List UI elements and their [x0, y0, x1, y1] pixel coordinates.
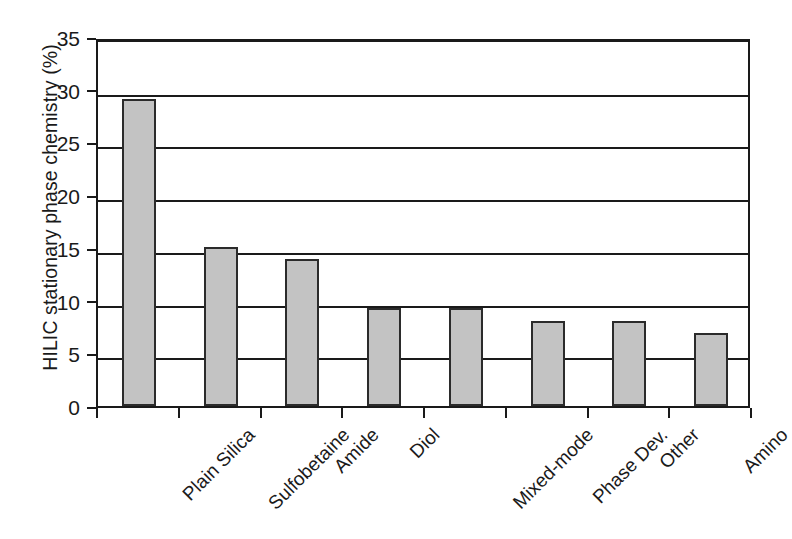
- y-axis-ticks: 05101520253035: [0, 0, 96, 539]
- y-axis-tick-label: 35: [57, 28, 80, 49]
- x-axis-tick-mark: [668, 408, 670, 418]
- gridline: [98, 147, 748, 149]
- bar: [694, 333, 728, 406]
- x-axis-category-label-text: Diol: [406, 424, 445, 463]
- x-axis-tick-mark: [587, 408, 589, 418]
- x-axis-category-label: Plain Silica: [178, 424, 259, 505]
- x-axis-category-label-text: Plain Silica: [178, 424, 259, 505]
- y-axis-tick-label: 10: [57, 292, 80, 313]
- y-axis-tick-mark: [87, 407, 96, 409]
- bar: [285, 259, 319, 406]
- y-axis-tick-label: 0: [68, 397, 80, 418]
- x-axis-tick-mark: [423, 408, 425, 418]
- y-axis-tick-label: 5: [68, 344, 80, 365]
- x-axis-tick-mark: [750, 408, 752, 418]
- x-axis-category-label-text: Phase Dev.: [588, 424, 672, 508]
- x-axis-tick-mark: [96, 408, 98, 418]
- y-axis-tick-label: 15: [57, 239, 80, 260]
- bar: [367, 308, 401, 406]
- x-axis-category-label-text: Amino: [739, 424, 792, 478]
- x-axis-category-label: Amino: [739, 424, 792, 478]
- y-axis-tick-mark: [87, 196, 96, 198]
- x-axis-category-label: Mixed-mode: [508, 424, 597, 513]
- y-axis-tick-mark: [87, 143, 96, 145]
- bar: [612, 321, 646, 406]
- gridline: [98, 253, 748, 255]
- gridline: [98, 306, 748, 308]
- y-axis-tick-label: 20: [57, 186, 80, 207]
- x-axis-tick-mark: [178, 408, 180, 418]
- bar: [449, 308, 483, 406]
- bar: [531, 321, 565, 406]
- gridline: [98, 358, 748, 360]
- x-axis-category-label-text: Mixed-mode: [508, 424, 597, 513]
- y-axis-tick-label: 30: [57, 81, 80, 102]
- gridline: [98, 95, 748, 97]
- x-axis-tick-mark: [505, 408, 507, 418]
- y-axis-tick-mark: [87, 38, 96, 40]
- y-axis-tick-mark: [87, 354, 96, 356]
- x-axis-tick-mark: [260, 408, 262, 418]
- x-axis-tick-mark: [341, 408, 343, 418]
- x-axis-category-label: Phase Dev.: [588, 424, 672, 508]
- y-axis-tick-mark: [87, 249, 96, 251]
- plot-area: [96, 39, 750, 408]
- bar: [122, 99, 156, 406]
- y-axis-tick-mark: [87, 90, 96, 92]
- gridline: [98, 200, 748, 202]
- x-axis-category-label: Diol: [406, 424, 445, 463]
- y-axis-tick-mark: [87, 301, 96, 303]
- y-axis-tick-label: 25: [57, 133, 80, 154]
- bar: [204, 247, 238, 406]
